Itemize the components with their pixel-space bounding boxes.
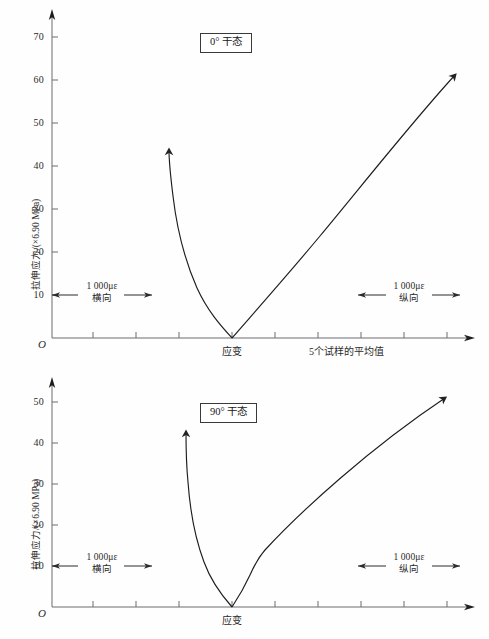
y-tick-marks	[52, 402, 58, 566]
y-tick-label: 10	[22, 289, 44, 300]
y-tick-label: 40	[22, 437, 44, 448]
annotation-longitudinal: 1 000με 纵向	[350, 281, 468, 304]
y-axis-title: 拉伸应力/(×6.90 MPa)	[28, 479, 42, 570]
annotation-transverse-value: 1 000με	[43, 552, 161, 564]
annotation-transverse-label: 横向	[43, 293, 161, 305]
x-axis-title: 应变	[202, 612, 262, 627]
x-axis-title: 应变	[202, 343, 262, 358]
chart-title-box: 0° 干态	[200, 33, 252, 53]
y-axis-title: 拉伸应力/(×6.90 MPa)	[28, 199, 42, 290]
chart-panel-bottom: 50 40 30 20 10 O 拉伸应力/(×6.90 MPa) 90° 干态…	[0, 370, 489, 639]
annotation-longitudinal-value: 1 000με	[350, 552, 468, 564]
y-tick-label: 70	[22, 31, 44, 42]
y-tick-label: 60	[22, 74, 44, 85]
x-tick-marks	[93, 601, 447, 607]
chart-panel-top: 70 60 50 40 30 20 10 O 拉伸应力/(×6.90 MPa) …	[0, 0, 489, 370]
annotation-transverse: 1 000με 横向	[43, 281, 161, 304]
series-curve-longitudinal	[232, 398, 445, 607]
y-tick-label: 50	[22, 396, 44, 407]
origin-label: O	[38, 607, 46, 619]
annotation-transverse-value: 1 000με	[43, 281, 161, 293]
annotation-transverse-label: 横向	[43, 564, 161, 576]
series-curve-transverse	[186, 432, 232, 607]
chart-top-plot	[0, 0, 489, 370]
x-tick-marks	[93, 332, 447, 338]
figure-page: 70 60 50 40 30 20 10 O 拉伸应力/(×6.90 MPa) …	[0, 0, 489, 639]
annotation-longitudinal: 1 000με 纵向	[350, 552, 468, 575]
y-tick-label: 40	[22, 160, 44, 171]
annotation-longitudinal-value: 1 000με	[350, 281, 468, 293]
y-tick-marks	[52, 37, 58, 295]
sample-average-note: 5个试样的平均值	[309, 343, 384, 358]
annotation-transverse: 1 000με 横向	[43, 552, 161, 575]
series-curve-transverse	[169, 150, 232, 338]
y-tick-label: 50	[22, 117, 44, 128]
annotation-longitudinal-label: 纵向	[350, 293, 468, 305]
chart-title-box: 90° 干态	[200, 403, 257, 423]
annotation-longitudinal-label: 纵向	[350, 564, 468, 576]
origin-label: O	[38, 338, 46, 350]
